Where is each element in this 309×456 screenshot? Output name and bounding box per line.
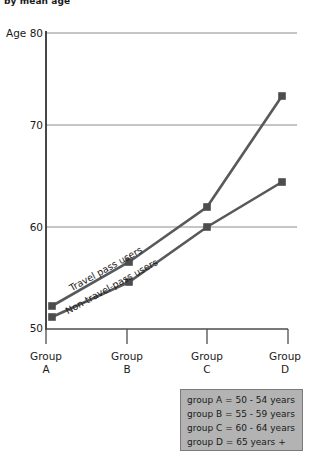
- x-tick-label-group-a-line2: A: [18, 363, 74, 376]
- data-point-travel-d: [278, 92, 286, 100]
- data-point-nontravel-a: [48, 313, 56, 321]
- x-tick-label-group-d-line1: Group: [257, 350, 309, 363]
- legend-entry-group-a: group A = 50 - 54 years: [187, 393, 297, 407]
- legend-entry-group-d: group D = 65 years +: [187, 435, 297, 449]
- legend-entry-group-c: group C = 60 - 64 years: [187, 421, 297, 435]
- x-tick-label-group-c: Group C: [179, 350, 235, 376]
- data-point-nontravel-c: [203, 223, 211, 231]
- plot-area: [0, 0, 309, 456]
- x-tick-label-group-b: Group B: [99, 350, 155, 376]
- data-point-travel-c: [203, 203, 211, 211]
- x-tick-label-group-d-line2: D: [257, 363, 309, 376]
- x-tick-label-group-c-line1: Group: [179, 350, 235, 363]
- legend-box: group A = 50 - 54 years group B = 55 - 5…: [180, 389, 303, 451]
- x-tick-label-group-a: Group A: [18, 350, 74, 376]
- data-point-travel-a: [48, 302, 56, 310]
- x-tick-label-group-d: Group D: [257, 350, 309, 376]
- x-tick-label-group-b-line1: Group: [99, 350, 155, 363]
- x-tick-label-group-c-line2: C: [179, 363, 235, 376]
- x-tick-label-group-b-line2: B: [99, 363, 155, 376]
- x-tick-label-group-a-line1: Group: [18, 350, 74, 363]
- legend-entry-group-b: group B = 55 - 59 years: [187, 407, 297, 421]
- chart-figure: by mean age Age 80 70 60 50 Travel pass …: [0, 0, 309, 456]
- data-point-nontravel-d: [278, 178, 286, 186]
